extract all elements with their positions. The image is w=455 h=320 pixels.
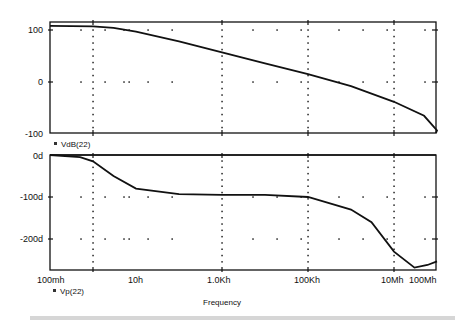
bottom-shadow-bar bbox=[30, 316, 455, 320]
y-tick-minus-100: -100 bbox=[25, 129, 43, 139]
y-tick-0d: 0d bbox=[33, 151, 43, 161]
x-axis: 100mh 10h 1.0Kh 100Kh 10Mh 100Mh Vp(22) … bbox=[37, 275, 437, 307]
x-tick-10h: 10h bbox=[128, 275, 143, 285]
x-tick-100mh-upper: 100Mh bbox=[409, 275, 437, 285]
vdb-curve bbox=[50, 26, 437, 133]
y-tick-minus-200d: -200d bbox=[20, 234, 43, 244]
vp-curve bbox=[50, 155, 437, 268]
vdb-legend-marker-icon bbox=[54, 142, 57, 145]
phase-grid bbox=[80, 160, 426, 262]
bode-plot: 100 0 -100 VdB(22) 0d -100d -200d 100mh … bbox=[0, 0, 455, 320]
y-tick-0: 0 bbox=[38, 77, 43, 87]
x-tick-100kh: 100Kh bbox=[294, 275, 320, 285]
magnitude-plot-frame bbox=[50, 22, 436, 133]
magnitude-grid bbox=[80, 29, 426, 128]
vp-legend-marker-icon bbox=[53, 289, 56, 292]
magnitude-plot: 100 0 -100 VdB(22) bbox=[25, 20, 438, 149]
y-tick-minus-100d: -100d bbox=[20, 192, 43, 202]
phase-plot: 0d -100d -200d bbox=[20, 151, 438, 272]
x-tick-1kh: 1.0Kh bbox=[207, 275, 231, 285]
x-tick-100mh: 100mh bbox=[37, 275, 65, 285]
y-tick-100: 100 bbox=[28, 25, 43, 35]
x-axis-title: Frequency bbox=[203, 298, 241, 307]
vp-legend-label: Vp(22) bbox=[60, 287, 84, 296]
x-tick-10mh: 10Mh bbox=[381, 275, 404, 285]
vdb-legend-label: VdB(22) bbox=[61, 140, 91, 149]
